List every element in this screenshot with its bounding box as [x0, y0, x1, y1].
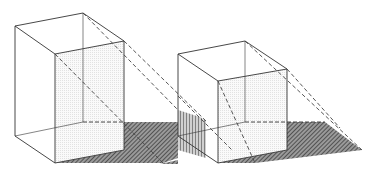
- wall-shadow: [178, 110, 206, 158]
- diagram-canvas: Shadow projection of two rectangular box…: [0, 0, 380, 174]
- shadow-diagram: [0, 0, 380, 174]
- tall-box: [15, 13, 124, 163]
